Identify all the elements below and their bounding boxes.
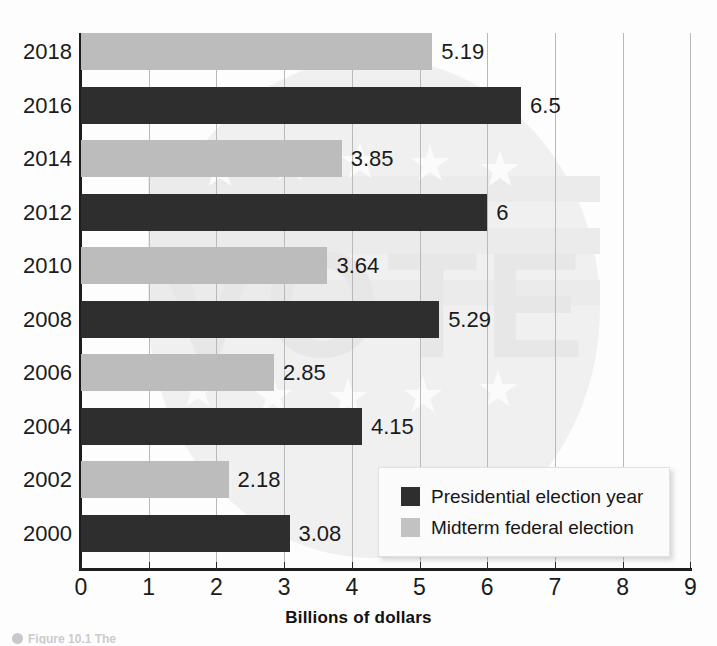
- x-tick-label: 4: [332, 574, 372, 601]
- year-label-2008: 2008: [2, 301, 72, 338]
- x-tick-label: 7: [535, 574, 575, 601]
- year-label-2000: 2000: [2, 515, 72, 552]
- bar-2002[interactable]: [81, 461, 229, 498]
- bar-value-label-2004: 4.15: [371, 408, 414, 445]
- x-axis-title: Billions of dollars: [0, 608, 717, 628]
- year-label-2014: 2014: [2, 140, 72, 177]
- x-tick-label: 9: [670, 574, 710, 601]
- x-tick-label: 8: [603, 574, 643, 601]
- legend-label-midterm: Midterm federal election: [431, 517, 634, 539]
- bar-value-label-2010: 3.64: [336, 247, 379, 284]
- x-tick-label: 1: [129, 574, 169, 601]
- bar-value-label-2012: 6: [496, 194, 508, 231]
- bar-value-label-2002: 2.18: [238, 461, 281, 498]
- x-tick-label: 0: [61, 574, 101, 601]
- bar-chart-figure: VOTE 20182016201420122010200820062004200…: [0, 0, 717, 646]
- bar-value-label-2016: 6.5: [530, 87, 561, 124]
- gridline: [690, 33, 691, 569]
- year-label-2004: 2004: [2, 408, 72, 445]
- bar-2014[interactable]: [81, 140, 342, 177]
- x-tick-label: 3: [264, 574, 304, 601]
- bar-value-label-2018: 5.19: [441, 33, 484, 70]
- year-label-2006: 2006: [2, 354, 72, 391]
- x-tick-label: 6: [467, 574, 507, 601]
- x-axis-tick: [690, 562, 691, 570]
- bar-value-label-2008: 5.29: [448, 301, 491, 338]
- legend-swatch-midterm-icon: [401, 518, 420, 537]
- caption-bullet-icon: [12, 633, 23, 644]
- bar-2010[interactable]: [81, 247, 327, 284]
- bar-2006[interactable]: [81, 354, 274, 391]
- bar-value-label-2014: 3.85: [351, 140, 394, 177]
- year-label-2016: 2016: [2, 87, 72, 124]
- bar-value-label-2000: 3.08: [299, 515, 342, 552]
- year-label-2002: 2002: [2, 461, 72, 498]
- legend-item-presidential[interactable]: Presidential election year: [401, 481, 669, 512]
- legend-label-presidential: Presidential election year: [431, 486, 643, 508]
- year-label-2018: 2018: [2, 33, 72, 70]
- chart-legend: Presidential election year Midterm feder…: [378, 467, 670, 557]
- y-axis-category-labels: 2018201620142012201020082006200420022000: [0, 33, 72, 569]
- year-label-2010: 2010: [2, 247, 72, 284]
- bar-2000[interactable]: [81, 515, 290, 552]
- x-tick-label: 5: [400, 574, 440, 601]
- bar-2012[interactable]: [81, 194, 487, 231]
- bar-value-label-2006: 2.85: [283, 354, 326, 391]
- bar-2008[interactable]: [81, 301, 439, 338]
- bar-2018[interactable]: [81, 33, 432, 70]
- x-tick-label: 2: [196, 574, 236, 601]
- year-label-2012: 2012: [2, 194, 72, 231]
- figure-caption: Figure 10.1 The: [28, 632, 116, 644]
- bar-2016[interactable]: [81, 87, 521, 124]
- bar-2004[interactable]: [81, 408, 362, 445]
- legend-swatch-presidential-icon: [401, 487, 420, 506]
- legend-item-midterm[interactable]: Midterm federal election: [401, 512, 669, 543]
